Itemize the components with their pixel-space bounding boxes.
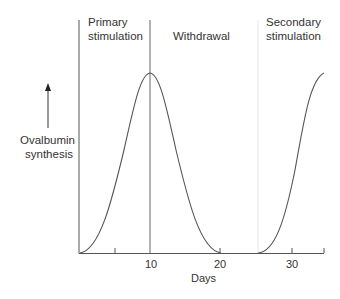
x-axis-label: Days (191, 271, 216, 285)
phase-primary-label-2: stimulation (88, 29, 143, 43)
y-axis-label-2: synthesis (25, 147, 73, 161)
arrow-up-icon (45, 83, 51, 91)
phase-withdrawal-label: Withdrawal (173, 29, 230, 43)
y-axis-label-1: Ovalbumin (20, 133, 75, 147)
x-tick-label-20: 20 (214, 258, 226, 270)
x-tick-label-30: 30 (286, 258, 298, 270)
phase-secondary-label-2: stimulation (266, 29, 321, 43)
secondary-curve (258, 73, 324, 253)
x-tick-label-10: 10 (145, 258, 157, 270)
phase-primary-label-1: Primary (88, 15, 128, 29)
phase-secondary-label-1: Secondary (266, 15, 321, 29)
